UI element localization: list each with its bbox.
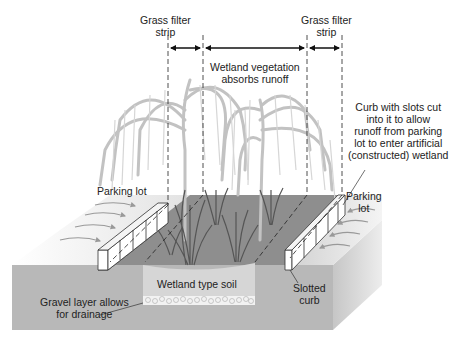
label-line: for drainage	[40, 308, 129, 320]
label-line: Curb with slots cut	[348, 101, 448, 113]
label-line: lot	[346, 202, 382, 214]
label-wetland-soil: Wetland type soil	[157, 278, 237, 290]
label-line: into it to allow	[348, 113, 448, 125]
label-grass-filter-strip-left: Grass filter strip	[140, 14, 191, 38]
label-line: lot to enter artificial	[348, 137, 448, 149]
label-line: Gravel layer allows	[40, 296, 129, 308]
label-grass-filter-strip-right: Grass filter strip	[301, 14, 352, 38]
label-line: (constructed) wetland	[348, 149, 448, 161]
label-line: runoff from parking	[348, 125, 448, 137]
label-curb-description: Curb with slots cut into it to allow run…	[348, 101, 448, 161]
label-gravel-layer: Gravel layer allows for drainage	[40, 296, 129, 320]
label-line: Parking	[346, 190, 382, 202]
label-line: absorbs runoff	[210, 73, 300, 85]
label-line: strip	[140, 26, 191, 38]
label-line: Grass filter	[140, 14, 191, 26]
label-line: Wetland vegetation	[210, 61, 300, 73]
label-slotted-curb: Slotted curb	[293, 282, 326, 306]
label-line: Slotted	[293, 282, 326, 294]
label-wetland-vegetation: Wetland vegetation absorbs runoff	[210, 61, 300, 85]
label-parking-lot-left: Parking lot	[97, 185, 147, 197]
label-line: Grass filter	[301, 14, 352, 26]
label-line: strip	[301, 26, 352, 38]
label-line: curb	[293, 294, 326, 306]
label-parking-lot-right: Parking lot	[346, 190, 382, 214]
